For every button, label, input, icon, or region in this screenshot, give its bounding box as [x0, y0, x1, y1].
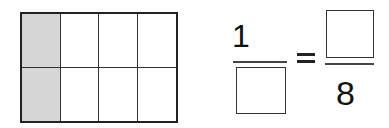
right-fraction-bar — [325, 63, 374, 65]
right-numerator-answer-box[interactable] — [326, 10, 374, 58]
grid-cell-shaded — [22, 14, 61, 68]
left-denominator-answer-box[interactable] — [236, 67, 286, 114]
grid-cell — [138, 14, 177, 68]
equals-top-line — [297, 53, 315, 56]
right-denominator: 8 — [336, 76, 355, 110]
grid-cell — [61, 68, 100, 122]
equals-bottom-line — [297, 60, 315, 63]
grid-cell — [61, 14, 100, 68]
grid-cell — [99, 14, 138, 68]
fraction-grid — [20, 12, 178, 123]
grid-cell — [99, 68, 138, 122]
left-numerator: 1 — [232, 20, 250, 52]
grid-cell-shaded — [22, 68, 61, 122]
left-fraction-bar — [233, 61, 287, 63]
grid-cell — [138, 68, 177, 122]
